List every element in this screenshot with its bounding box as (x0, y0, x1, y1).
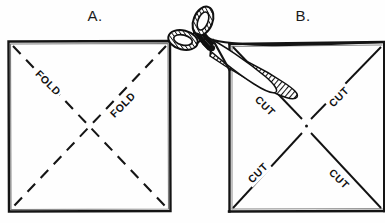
panel-b-letter: B. (295, 7, 310, 24)
panel-a-fold-label-1: FOLD (31, 66, 64, 99)
fold-label-right: FOLD (107, 89, 137, 119)
panel-a-letter: A. (87, 7, 102, 24)
fold-label-left: FOLD (33, 67, 63, 97)
panel-a-fold-lines (13, 46, 166, 207)
panel-b-cut-label-2: CUT (324, 82, 353, 111)
scissors-icon (166, 2, 300, 106)
center-point (305, 125, 308, 128)
panel-a: A. FOLD FOLD (9, 7, 171, 212)
panel-b-cut-label-3: CUT (243, 158, 272, 187)
figure-canvas: A. FOLD FOLD (0, 0, 385, 223)
instruction-figure: A. FOLD FOLD (0, 0, 385, 223)
panel-b-cut-label-4: CUT (325, 164, 354, 193)
